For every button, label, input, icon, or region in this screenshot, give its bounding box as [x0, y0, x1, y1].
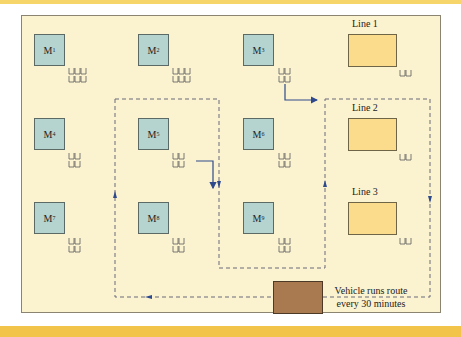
machine-m6: M6 [243, 118, 274, 150]
vehicle-note-line2: every 30 minutes [328, 297, 414, 310]
machine-label: M [44, 213, 53, 224]
machine-m4: M4 [34, 118, 65, 150]
machine-subscript: 8 [156, 215, 159, 221]
machine-subscript: 2 [156, 47, 159, 53]
vehicle-note-line1: Vehicle runs route [328, 284, 414, 297]
machine-label: M [253, 129, 262, 140]
machine-m2: M2 [138, 34, 169, 66]
line-3-box [348, 202, 397, 235]
line-2-label: Line 2 [352, 102, 378, 113]
machine-subscript: 7 [52, 215, 55, 221]
machine-label: M [148, 129, 157, 140]
machine-m5: M5 [138, 118, 169, 150]
machine-m1: M1 [34, 34, 65, 66]
machine-m9: M9 [243, 202, 274, 234]
line-1-box [348, 34, 397, 67]
line-3-label: Line 3 [352, 186, 378, 197]
machine-subscript: 3 [261, 47, 264, 53]
machine-label: M [148, 45, 157, 56]
machine-label: M [148, 213, 157, 224]
machine-m3: M3 [243, 34, 274, 66]
machine-label: M [44, 45, 53, 56]
bottom-accent-bar [0, 326, 461, 337]
machine-m8: M8 [138, 202, 169, 234]
machine-m7: M7 [34, 202, 65, 234]
line-1-label: Line 1 [352, 18, 378, 29]
machine-label: M [44, 129, 53, 140]
transport-vehicle [273, 281, 323, 314]
machine-subscript: 9 [261, 215, 264, 221]
vehicle-note: Vehicle runs route every 30 minutes [328, 284, 414, 310]
machine-subscript: 6 [261, 131, 264, 137]
machine-label: M [253, 45, 262, 56]
line-2-box [348, 118, 397, 151]
machine-subscript: 1 [52, 47, 55, 53]
machine-subscript: 5 [156, 131, 159, 137]
machine-subscript: 4 [52, 131, 55, 137]
machine-label: M [253, 213, 262, 224]
